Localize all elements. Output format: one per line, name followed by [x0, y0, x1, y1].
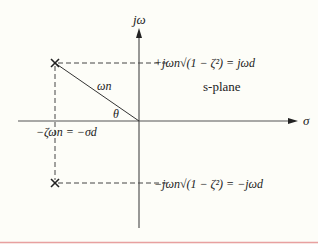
real-part-label: −ζωn = −σd	[36, 126, 97, 138]
s-plane-diagram: jω σ ωn θ s-plane +jωn√(1 − ζ²) = jωd −j…	[0, 0, 318, 244]
upper-pole-label: +jωn√(1 − ζ²) = jωd	[154, 57, 255, 69]
omega-n-label: ωn	[97, 80, 111, 92]
jomega-axis-arrow-icon	[136, 28, 142, 38]
jomega-axis-label: jω	[133, 13, 146, 26]
diagram-graphics	[0, 0, 318, 244]
lower-pole-marker-icon	[51, 179, 59, 187]
lower-pole-label: −jωn√(1 − ζ²) = −jωd	[154, 178, 263, 190]
sigma-axis-label: σ	[303, 114, 309, 127]
theta-label: θ	[113, 108, 119, 120]
sigma-axis-arrow-icon	[288, 118, 298, 124]
upper-pole-marker-icon	[51, 59, 59, 67]
s-plane-label: s-plane	[203, 80, 241, 93]
